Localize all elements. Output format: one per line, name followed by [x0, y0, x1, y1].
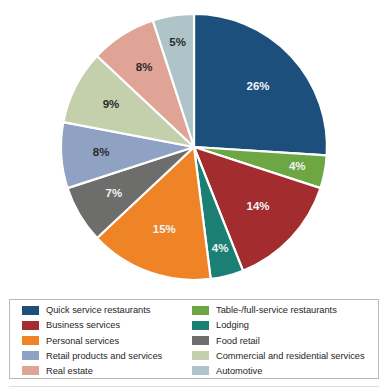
legend-item[interactable]: Personal services [10, 333, 186, 348]
legend-color-swatch [22, 306, 39, 315]
legend-color-swatch [192, 351, 209, 360]
pie-chart-figure: 26%4%14%4%15%7%8%9%8%5% Quick service re… [0, 0, 389, 391]
legend-color-swatch [192, 306, 209, 315]
pie-slice-value-label: 26% [246, 80, 269, 92]
legend-item[interactable]: Lodging [186, 318, 380, 333]
legend-item-label: Automotive [216, 366, 262, 376]
legend-item-label: Quick service restaurants [46, 305, 150, 315]
legend-item[interactable]: Food retail [186, 333, 380, 348]
legend-item-label: Commercial and residential services [216, 351, 365, 361]
pie-slice-value-label: 7% [106, 187, 123, 199]
chart-legend: Quick service restaurantsTable-/full-ser… [9, 299, 379, 379]
legend-item-label: Personal services [46, 336, 119, 346]
legend-color-swatch [192, 366, 209, 375]
pie-svg: 26%4%14%4%15%7%8%9%8%5% [0, 0, 389, 290]
pie-slice-value-label: 4% [289, 160, 306, 172]
pie-slice-value-label: 9% [103, 98, 120, 110]
legend-color-swatch [22, 321, 39, 330]
legend-item-label: Lodging [216, 320, 249, 330]
pie-slice-value-label: 5% [169, 36, 186, 48]
legend-item[interactable]: Real estate [10, 363, 186, 378]
legend-color-swatch [192, 321, 209, 330]
legend-item[interactable]: Commercial and residential services [186, 348, 380, 363]
legend-item[interactable]: Retail products and services [10, 348, 186, 363]
pie-slice-value-label: 4% [212, 242, 229, 254]
pie-slice-value-label: 8% [93, 146, 110, 158]
pie-slice-value-label: 14% [246, 200, 269, 212]
legend-item-label: Real estate [46, 366, 93, 376]
legend-item[interactable]: Business services [10, 318, 186, 333]
legend-item[interactable]: Table-/full-service restaurants [186, 303, 380, 318]
legend-item-label: Business services [46, 320, 120, 330]
pie-slice-value-label: 15% [153, 223, 176, 235]
legend-item-label: Food retail [216, 336, 260, 346]
legend-color-swatch [22, 336, 39, 345]
pie-plot-area: 26%4%14%4%15%7%8%9%8%5% [0, 0, 389, 290]
legend-item[interactable]: Automotive [186, 363, 380, 378]
legend-item-label: Retail products and services [46, 351, 162, 361]
legend-color-swatch [22, 351, 39, 360]
pie-slice-value-label: 8% [136, 61, 153, 73]
legend-color-swatch [22, 366, 39, 375]
legend-item-label: Table-/full-service restaurants [216, 305, 337, 315]
legend-grid: Quick service restaurantsTable-/full-ser… [10, 300, 378, 378]
legend-item[interactable]: Quick service restaurants [10, 303, 186, 318]
legend-color-swatch [192, 336, 209, 345]
bottom-divider [9, 386, 379, 387]
